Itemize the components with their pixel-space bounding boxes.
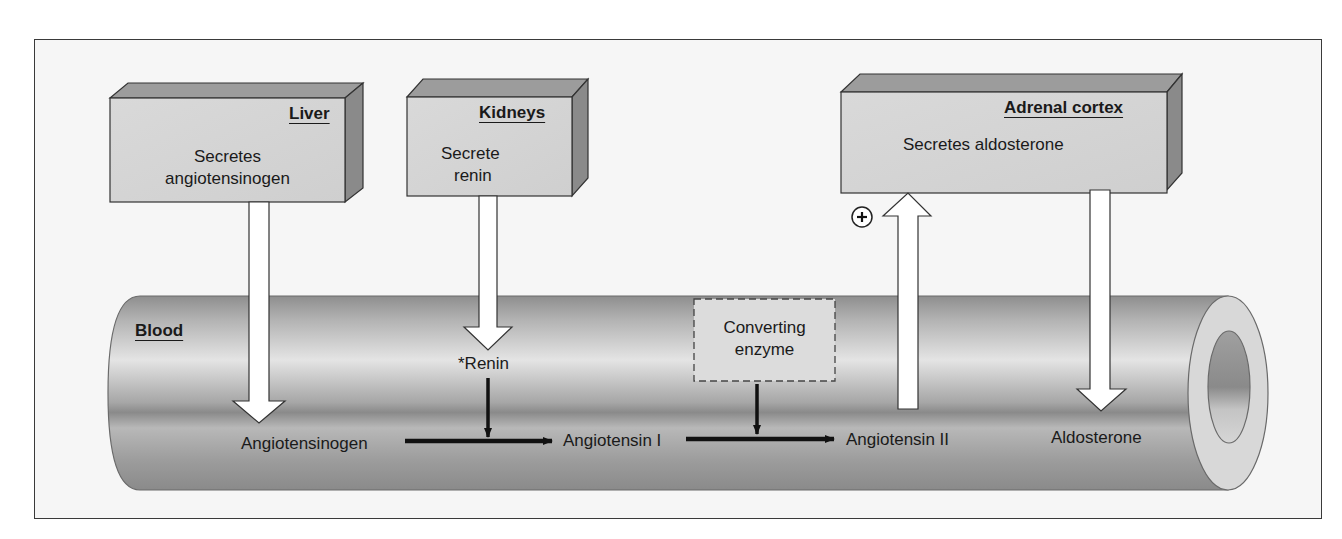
angiotensinogen-label: Angiotensinogen (241, 434, 368, 454)
aldosterone-label: Aldosterone (1051, 428, 1142, 448)
kidneys-box (407, 79, 588, 196)
adrenal-title: Adrenal cortex (1004, 98, 1123, 118)
diagram-artwork (0, 0, 1342, 539)
blood-label: Blood (135, 321, 183, 341)
angiotensin-ii-label: Angiotensin II (846, 430, 949, 450)
adrenal-cortex-box (841, 74, 1182, 193)
angiotensin-i-label: Angiotensin I (563, 431, 661, 451)
liver-text-line2: angiotensinogen (110, 169, 345, 189)
kidneys-text-line2: renin (454, 166, 492, 186)
adrenal-text: Secretes aldosterone (903, 135, 1064, 155)
liver-text-line1: Secretes (110, 147, 345, 167)
liver-title: Liver (289, 104, 330, 124)
enzyme-label-line1: Converting (694, 318, 835, 338)
renin-label: *Renin (458, 354, 509, 374)
kidneys-title: Kidneys (479, 103, 545, 123)
enzyme-label-line2: enzyme (694, 340, 835, 360)
kidneys-text-line1: Secrete (441, 144, 500, 164)
plus-circle-icon (852, 207, 872, 227)
kidney-secretion-arrow (464, 196, 512, 350)
